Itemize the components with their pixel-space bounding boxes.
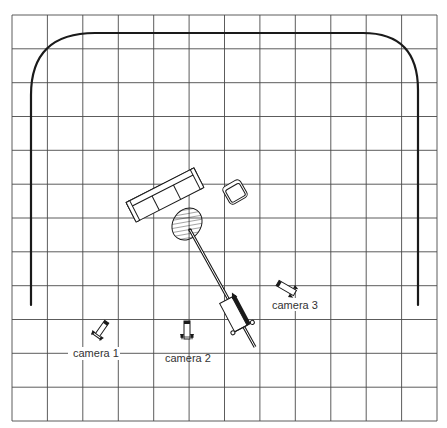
camera-1-label: camera 1	[73, 347, 119, 359]
crane-boom	[190, 230, 255, 347]
camera-3-label: camera 3	[272, 299, 318, 311]
studio-floor-plan: camera 1 camera 2 camera 3	[0, 0, 447, 428]
camera-1-icon	[90, 318, 113, 342]
dolly-icon	[214, 290, 255, 336]
rug-icon	[166, 202, 208, 246]
armchair-icon	[221, 178, 248, 205]
floor-grid	[12, 15, 437, 421]
camera-2-label: camera 2	[165, 352, 211, 364]
camera-2-icon	[180, 321, 194, 340]
camera-1-label-group: camera 1	[68, 347, 120, 360]
camera-3-label-group: camera 3	[270, 298, 322, 311]
